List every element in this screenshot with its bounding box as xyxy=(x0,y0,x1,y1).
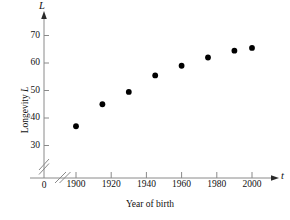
y-tick-label-40: 40 xyxy=(31,113,41,123)
x-axis-title: Year of birth xyxy=(126,199,174,209)
x-tick-label-1980: 1980 xyxy=(207,180,226,190)
y-axis-title-text: Longevity xyxy=(20,92,30,133)
data-point xyxy=(249,45,255,51)
y-tick-label-70: 70 xyxy=(31,31,41,41)
x-axis-variable-t: t xyxy=(281,171,284,182)
y-axis-title-variable: L xyxy=(20,87,30,92)
x-tick-label-1920: 1920 xyxy=(102,180,121,190)
data-point xyxy=(179,63,185,69)
data-point xyxy=(126,89,132,95)
x-tick-label-1960: 1960 xyxy=(172,180,191,190)
y-tick-label-30: 30 xyxy=(31,141,41,151)
y-axis-variable-L: L xyxy=(39,1,45,12)
y-tick-label-50: 50 xyxy=(31,86,41,96)
data-point xyxy=(100,101,106,107)
x-tick-label-2000: 2000 xyxy=(243,180,262,190)
x-tick-label-1900: 1900 xyxy=(67,180,86,190)
y-axis-arrowhead xyxy=(41,11,47,19)
data-point xyxy=(73,123,79,129)
y-axis-title: Longevity L xyxy=(20,87,30,134)
y-tick-label-60: 60 xyxy=(31,58,41,68)
y-tick-marks xyxy=(44,36,49,146)
x-tick-marks xyxy=(76,172,252,178)
data-point xyxy=(232,48,238,54)
data-point xyxy=(205,55,211,61)
origin-label: 0 xyxy=(42,180,47,190)
data-point xyxy=(152,72,158,78)
x-axis-arrowhead xyxy=(271,175,279,181)
longevity-scatter-figure: 70 60 50 40 30 1900 1920 1940 1960 1980 … xyxy=(0,0,290,220)
data-point-group xyxy=(73,45,255,129)
x-tick-label-1940: 1940 xyxy=(137,180,156,190)
